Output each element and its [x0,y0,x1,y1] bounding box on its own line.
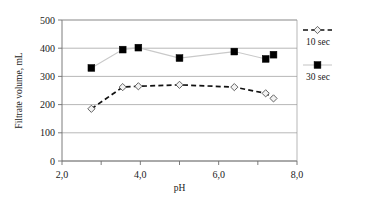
y-tick-label-0: 0 [50,156,55,167]
y-tick-label-100: 100 [40,127,55,138]
x-tick-label-6: 6,0 [212,169,225,180]
data-point-30-sec-1 [119,46,126,53]
legend-sample-marker-10-sec [314,26,321,33]
plot-area-background [62,20,297,161]
y-tick-label-200: 200 [40,99,55,110]
data-point-30-sec-6 [270,51,277,58]
y-tick-label-300: 300 [40,71,55,82]
data-point-30-sec-3 [176,55,183,62]
data-point-30-sec-2 [135,44,142,51]
chart-canvas: 01002003004005002,04,06,08,0pHFiltrate v… [0,0,366,202]
legend-sample-marker-30-sec [314,62,321,69]
data-point-30-sec-4 [231,48,238,55]
y-tick-label-500: 500 [40,15,55,26]
data-point-30-sec-5 [262,56,269,63]
legend-label-30-sec: 30 sec [306,72,330,82]
y-tick-label-400: 400 [40,43,55,54]
x-tick-label-2: 2,0 [56,169,69,180]
data-point-30-sec-0 [88,65,95,72]
chart-figure: 01002003004005002,04,06,08,0pHFiltrate v… [0,0,366,202]
y-axis-title: Filtrate volume, mL [14,52,24,128]
legend-label-10-sec: 10 sec [306,37,330,47]
x-tick-label-8: 8,0 [291,169,304,180]
x-tick-label-4: 4,0 [134,169,147,180]
x-axis-title: pH [174,183,186,193]
